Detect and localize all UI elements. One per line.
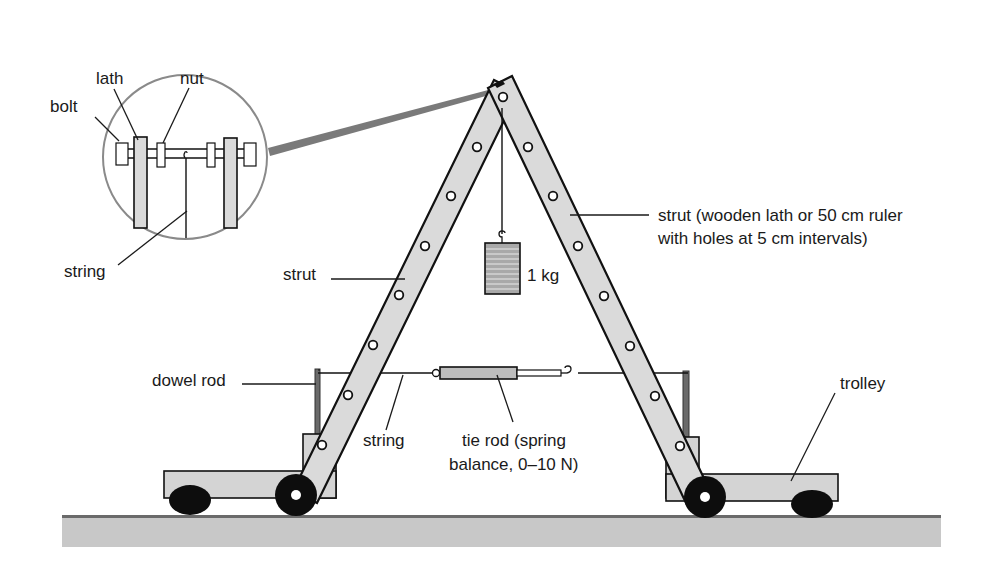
spring-balance-ring bbox=[433, 370, 440, 377]
left-trolley-rear-wheel bbox=[169, 485, 211, 515]
inset-lath-right bbox=[224, 138, 237, 228]
label-bolt: bolt bbox=[50, 97, 78, 116]
label-trolley: trolley bbox=[840, 374, 886, 393]
inset-lath-left bbox=[134, 137, 147, 228]
label-nut: nut bbox=[180, 69, 204, 88]
label-tie-rod-line2: balance, 0–10 N) bbox=[449, 455, 578, 474]
label-tie-rod-line1: tie rod (spring bbox=[462, 431, 566, 450]
inset-nut-right bbox=[207, 143, 215, 167]
spring-balance-body bbox=[440, 367, 517, 379]
label-strut-right-line2: with holes at 5 cm intervals) bbox=[657, 229, 868, 248]
label-strut-right-line1: strut (wooden lath or 50 cm ruler bbox=[658, 206, 903, 225]
spring-balance-hook bbox=[565, 366, 571, 373]
label-string-tie: string bbox=[363, 431, 405, 450]
right-trolley-rear-wheel bbox=[791, 490, 833, 518]
inset-nut-left bbox=[157, 143, 165, 167]
label-dowel-rod: dowel rod bbox=[152, 371, 226, 390]
label-string-inset: string bbox=[64, 262, 106, 281]
label-mass: 1 kg bbox=[527, 266, 559, 285]
left-dowel-rod bbox=[315, 369, 320, 437]
right-dowel-rod bbox=[683, 371, 689, 439]
a-frame-diagram: lath nut bolt string strut strut (wooden… bbox=[0, 0, 996, 567]
right-trolley-front-wheel bbox=[684, 476, 726, 518]
ground bbox=[62, 515, 941, 547]
label-lath: lath bbox=[96, 69, 123, 88]
left-trolley-front-wheel bbox=[275, 474, 317, 516]
magnifier-inset bbox=[103, 75, 267, 239]
inset-bolt-end bbox=[244, 143, 256, 166]
inset-bolt-head bbox=[116, 143, 128, 165]
label-strut-left: strut bbox=[283, 265, 316, 284]
magnifier-beam bbox=[268, 89, 493, 156]
spring-balance-stem bbox=[517, 370, 561, 376]
